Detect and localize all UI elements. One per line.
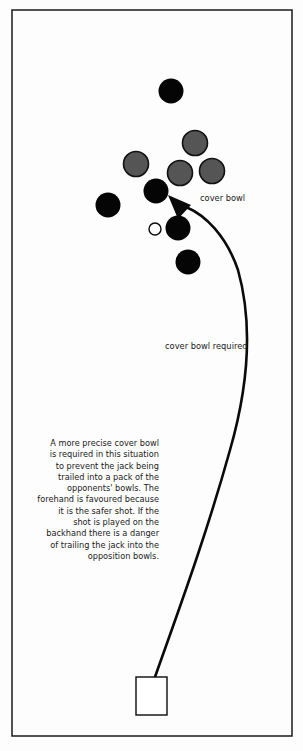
- mat-icon: [136, 677, 167, 715]
- own-bowl-icon: [96, 193, 121, 218]
- explanation-line: shot is played on the: [30, 517, 159, 528]
- explanation-line: A more precise cover bowl: [30, 438, 159, 449]
- explanation-line: opposition bowls.: [30, 551, 159, 562]
- explanation-line: backhand there is a danger: [30, 528, 159, 539]
- opponent-bowl-icon: [183, 131, 208, 156]
- cover-bowl-required-label: cover bowl required: [165, 342, 248, 350]
- delivery-arrow-path: [155, 207, 247, 677]
- explanation-line: opponents' bowls. The: [30, 483, 159, 494]
- explanation-line: trailed into a pack of the: [30, 472, 159, 483]
- bowls-diagram: [0, 0, 303, 751]
- own-bowl-icon: [144, 179, 169, 204]
- opponent-bowl-icon: [200, 159, 225, 184]
- opponent-bowl-icon: [168, 161, 193, 186]
- cover-bowl-label: cover bowl: [200, 194, 245, 202]
- own-bowl-icon: [159, 79, 184, 104]
- explanation-line: to prevent the jack being: [30, 461, 159, 472]
- explanation-text: A more precise cover bowl is required in…: [30, 438, 159, 562]
- jack-icon: [149, 223, 161, 235]
- arrowhead-icon: [168, 195, 191, 219]
- explanation-line: is required in this situation: [30, 449, 159, 460]
- explanation-line: of trailing the jack into the: [30, 540, 159, 551]
- explanation-line: forehand is favoured because: [30, 494, 159, 505]
- explanation-line: it is the safer shot. If the: [30, 506, 159, 517]
- bowls-group: [96, 79, 225, 275]
- own-bowl-icon: [176, 250, 201, 275]
- diagram-frame: [12, 10, 292, 736]
- opponent-bowl-icon: [124, 152, 149, 177]
- own-bowl-icon: [166, 216, 191, 241]
